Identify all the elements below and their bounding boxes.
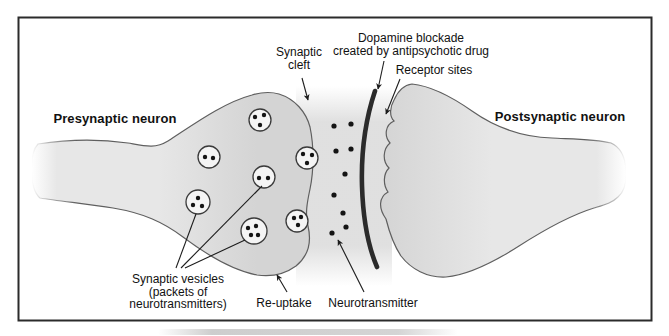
vesicle-dot [258,123,262,127]
neurotransmitter-dot [329,230,334,235]
vesicle-dot [299,215,303,219]
synaptic-vesicles-label-line1: Synaptic vesicles [129,273,226,286]
vesicle-dot [301,152,305,156]
reuptake-label: Re-uptake [256,297,311,310]
synaptic-cleft-label-line1: Synaptic [276,46,322,59]
dopamine-blockade-label-line1: Dopamine blockade [333,32,489,45]
vesicle-dot [246,226,250,230]
postsynaptic-neuron-label: Postsynaptic neuron [495,111,625,124]
vesicle-dot [292,216,296,220]
neurotransmitter-dot [331,192,336,197]
synaptic-vesicles-label: Synaptic vesicles (packets of neurotrans… [129,273,226,311]
neurotransmitter-dot [331,123,336,128]
neurotransmitter-dot [342,171,347,176]
vesicle-dot [211,156,215,160]
neurotransmitter-dot [348,146,353,151]
neurotransmitter-dot [343,224,348,229]
reuptake-arrow [277,275,287,292]
receptor-sites-label: Receptor sites [396,64,473,77]
synapse-figure: Presynaptic neuron Postsynaptic neuron S… [0,0,669,336]
dopamine-blockade-label: Dopamine blockade created by antipsychot… [333,32,489,57]
synaptic-vesicle [296,147,318,169]
vesicle-dot [305,161,309,165]
synaptic-vesicle [253,166,275,188]
neurotransmitter-dot [333,148,338,153]
dopamine-blockade-label-line2: created by antipsychotic drug [333,44,489,57]
synaptic-vesicle [198,146,220,168]
synaptic-cleft-label-line2: cleft [276,58,322,71]
vesicle-dot [196,196,200,200]
vesicle-dot [257,176,261,180]
presynaptic-neuron-label: Presynaptic neuron [53,113,176,126]
synaptic-vesicle [286,210,308,232]
vesicle-dot [310,153,314,157]
vesicle-dot [253,115,257,119]
vesicle-dot [200,204,204,208]
vesicle-dot [254,224,258,228]
neurotransmitter-dot [340,210,345,215]
dopamine-blockade-arrow [378,61,384,89]
neurotransmitter-label: Neurotransmitter [328,297,417,310]
synaptic-vesicle [249,109,271,131]
scan-smudge [158,329,458,335]
synaptic-vesicles-label-line3: neurotransmitters) [129,298,226,311]
vesicle-dot [191,203,195,207]
synaptic-vesicle [186,190,210,214]
synaptic-cleft-label: Synaptic cleft [276,46,322,71]
vesicle-dot [296,223,300,227]
vesicle-dot [249,233,253,237]
vesicle-dot [256,233,260,237]
vesicle-dot [266,176,270,180]
vesicle-dot [203,155,207,159]
neurotransmitter-dot [348,121,353,126]
vesicle-dot [262,113,266,117]
